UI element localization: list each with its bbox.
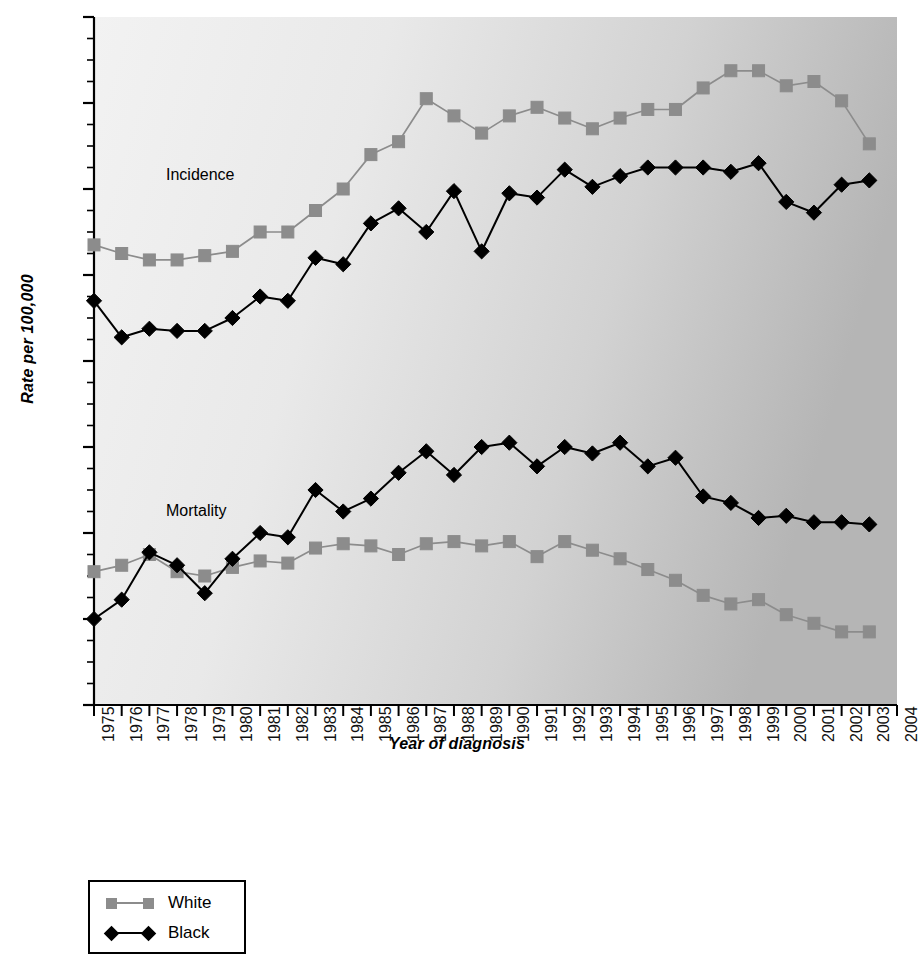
chart-legend: White Black [88,880,246,954]
legend-label-black: Black [168,923,210,943]
legend-swatch-black [104,925,156,941]
y-axis-title: Rate per 100,000 [19,239,37,439]
legend-item-black: Black [90,918,244,948]
legend-label-white: White [168,893,211,913]
series-annotation-layer: IncidenceMortality [0,0,914,720]
legend-item-white: White [90,888,244,918]
series-annotation: Incidence [166,166,235,184]
series-annotation: Mortality [166,502,226,520]
x-axis-title: Year of diagnosis [0,735,914,753]
legend-swatch-white [104,895,156,911]
